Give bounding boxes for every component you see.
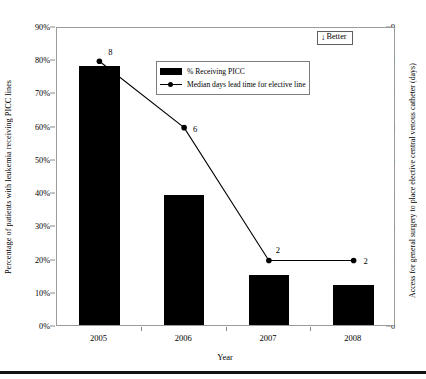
bottom-divider [0, 371, 426, 374]
x-axis-tick-label-2008: 2008 [344, 333, 361, 343]
left-axis-tick-mark [50, 27, 55, 28]
x-axis-tick-mark [141, 327, 142, 331]
left-axis-tick-label: 0% [16, 322, 50, 331]
left-axis-tick-label: 60% [16, 122, 50, 131]
left-axis-tick-mark [50, 326, 55, 327]
legend-item-bar: % Receiving PICC [160, 65, 305, 78]
left-axis-tick-mark [50, 193, 55, 194]
line-point-2008 [351, 258, 357, 264]
x-axis-title-text: Year [217, 352, 233, 362]
x-axis-tick-mark [310, 327, 311, 331]
line-point-label-2007: 2 [276, 245, 280, 255]
line-point-2007 [266, 258, 272, 264]
legend-item-line: Median days lead time for elective line [160, 78, 305, 91]
chart-legend: % Receiving PICC Median days lead time f… [156, 61, 310, 95]
x-axis-ticks: 2005200620072008 [56, 327, 395, 347]
line-point-2005 [97, 58, 103, 64]
x-axis-tick-label-2005: 2005 [90, 333, 107, 343]
better-badge-label: Better [327, 33, 347, 41]
left-axis-tick-mark [50, 60, 55, 61]
chart-figure: Percentage of patients with leukemia rec… [0, 0, 426, 379]
left-axis-tick-label: 10% [16, 288, 50, 297]
x-axis-tick-label-2006: 2006 [175, 333, 192, 343]
left-axis-tick-label: 90% [16, 23, 50, 32]
legend-item-bar-label: % Receiving PICC [187, 67, 245, 76]
legend-item-line-label: Median days lead time for elective line [187, 80, 306, 89]
down-arrow-icon: ↓ [321, 33, 326, 42]
line-point-2006 [181, 125, 187, 131]
line-point-label-2008: 2 [364, 256, 368, 266]
left-axis-ticks: 0%10%20%30%40%50%60%70%80%90% [12, 0, 50, 379]
x-axis-title: Year [55, 352, 395, 362]
left-axis-tick-label: 80% [16, 56, 50, 65]
line-point-label-2005: 8 [108, 47, 112, 57]
left-axis-tick-mark [50, 226, 55, 227]
left-axis-tick-mark [50, 93, 55, 94]
legend-line-swatch-icon [160, 81, 182, 88]
x-axis-tick-label-2007: 2007 [259, 333, 276, 343]
x-axis-tick-mark [226, 327, 227, 331]
left-axis-tick-mark [50, 159, 55, 160]
left-axis-tick-mark [50, 292, 55, 293]
legend-bar-swatch-icon [160, 68, 182, 75]
left-axis-tick-label: 30% [16, 222, 50, 231]
line-point-label-2006: 6 [193, 124, 197, 134]
left-axis-tick-label: 40% [16, 189, 50, 198]
better-badge: ↓ Better [317, 31, 353, 45]
left-axis-tick-label: 20% [16, 255, 50, 264]
left-axis-tick-mark [50, 126, 55, 127]
left-axis-tick-label: 50% [16, 155, 50, 164]
left-axis-tick-mark [50, 259, 55, 260]
left-axis-tick-label: 70% [16, 89, 50, 98]
